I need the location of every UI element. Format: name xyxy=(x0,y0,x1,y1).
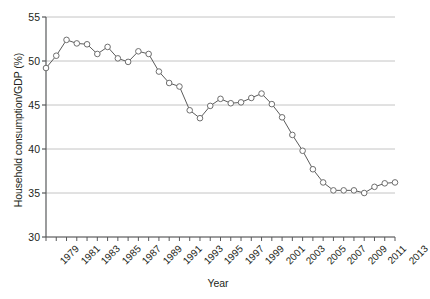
x-tick-label: 1999 xyxy=(263,243,287,267)
x-tick-label: 1991 xyxy=(181,243,205,267)
x-tick-label: 2005 xyxy=(324,243,348,267)
x-tick-label: 1979 xyxy=(58,243,82,267)
x-tick-label: 1997 xyxy=(242,243,266,267)
x-tick-label: 1989 xyxy=(160,243,184,267)
x-tick-label: 1983 xyxy=(99,243,123,267)
x-axis-title: Year xyxy=(40,277,396,289)
x-tick-label: 1985 xyxy=(119,243,143,267)
x-tick-label: 2003 xyxy=(304,243,328,267)
x-tick-label: 1981 xyxy=(78,243,102,267)
x-tick-label: 1993 xyxy=(201,243,225,267)
x-tick-label: 1995 xyxy=(222,243,246,267)
x-tick-label: 2009 xyxy=(365,243,389,267)
x-tick-label: 1987 xyxy=(140,243,164,267)
x-tick-label: 2013 xyxy=(407,243,430,267)
x-tick-label: 2001 xyxy=(283,243,307,267)
x-tick-label: 2011 xyxy=(386,243,409,266)
x-tick-label: 2007 xyxy=(345,243,369,267)
